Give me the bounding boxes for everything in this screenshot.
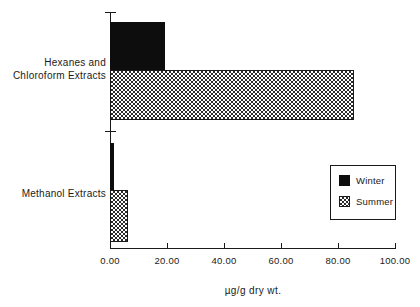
category-label-methanol-extracts: Methanol Extracts [22,187,106,200]
legend-swatch-winter-icon [339,175,350,186]
x-axis-title: µg/g dry wt. [110,285,396,296]
x-tick-100 [395,243,396,249]
y-axis-top-tick [105,12,116,13]
bar-hexanes-winter [110,22,165,70]
bar-methanol-winter [110,143,114,190]
x-tick-0 [110,243,111,249]
x-tick-label-100: 100.00 [380,255,410,266]
category-label-hexanes-chloroform-extracts: Hexanes and Chloroform Extracts [13,56,106,82]
x-tick-label-80: 80.00 [326,255,351,266]
x-axis-line [110,248,396,249]
legend-swatch-summer-icon [339,196,350,207]
x-tick-20 [167,243,168,249]
legend-label-winter: Winter [356,175,385,186]
bar-chart: 0.00 20.00 40.00 60.00 80.00 100.00 µg/g… [0,0,420,307]
legend-label-summer: Summer [356,196,393,207]
y-axis-category-divider-tick [105,131,116,132]
x-tick-80 [338,243,339,249]
x-tick-label-60: 60.00 [269,255,294,266]
x-tick-label-40: 40.00 [212,255,237,266]
legend: Winter Summer [330,165,396,220]
x-tick-40 [224,243,225,249]
x-tick-60 [281,243,282,249]
legend-entry-winter: Winter [339,175,385,186]
x-tick-label-0: 0.00 [100,255,119,266]
legend-entry-summer: Summer [339,196,393,207]
x-tick-label-20: 20.00 [155,255,180,266]
bar-methanol-summer [110,190,128,242]
bar-hexanes-summer [110,70,354,120]
